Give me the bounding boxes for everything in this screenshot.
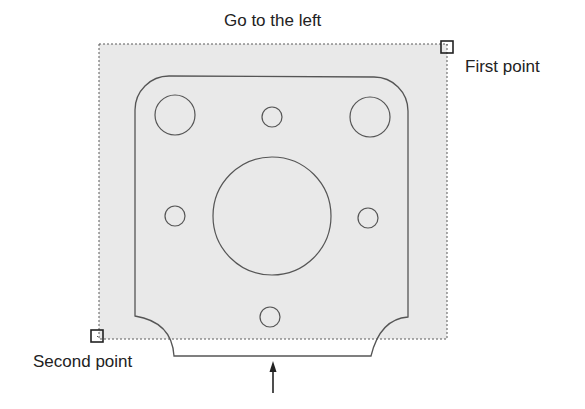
selection-window [99, 44, 447, 339]
drawing-canvas [0, 0, 585, 409]
arrow-up-icon [270, 361, 277, 393]
